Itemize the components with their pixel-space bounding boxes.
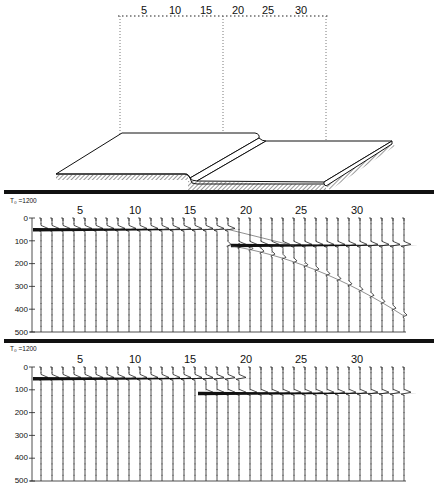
seismic-trace	[159, 367, 169, 481]
seismic-trace	[93, 218, 103, 332]
seismic-trace	[115, 367, 125, 481]
seismic-trace	[104, 367, 114, 481]
seismic-trace	[214, 218, 224, 332]
seismic-trace	[137, 218, 147, 332]
seismic-trace	[181, 367, 191, 481]
trace-label: 10	[129, 204, 141, 216]
y-tick-label: 200	[15, 259, 29, 268]
scale-label: 15	[200, 4, 212, 16]
trace-hook	[83, 367, 85, 370]
trace-label: 30	[351, 353, 363, 365]
y-tick-label: 300	[15, 431, 29, 440]
seismic-trace	[181, 218, 191, 332]
separator-bar	[4, 339, 434, 343]
seismic-trace	[60, 218, 70, 332]
y-tick-label: 0	[24, 363, 29, 372]
seismic-trace	[368, 218, 378, 332]
trace-hook	[193, 218, 195, 221]
seismic-trace	[49, 367, 59, 481]
reflector-band	[198, 392, 418, 396]
hatch-left	[56, 175, 188, 180]
seismic-trace	[159, 218, 169, 332]
trace-label: 5	[77, 353, 83, 365]
trace-hook	[215, 218, 217, 221]
seismic-trace	[346, 218, 356, 332]
trace-hook	[391, 218, 393, 221]
trace-label: 30	[351, 204, 363, 216]
seismic-trace	[269, 218, 279, 332]
seismic-trace	[313, 367, 323, 481]
trace-hook	[369, 218, 371, 221]
trace-hook	[50, 367, 52, 370]
trace-hook	[72, 367, 74, 370]
seismic-trace	[126, 218, 136, 332]
trace-hook	[380, 367, 382, 370]
trace-label: 25	[295, 204, 307, 216]
seismic-trace	[203, 367, 213, 481]
y-tick-label: 500	[15, 328, 29, 337]
trace-hook	[270, 218, 272, 221]
seismic-trace	[225, 367, 235, 481]
trace-label: 5	[77, 204, 83, 216]
seismic-trace	[379, 218, 389, 332]
trace-hook	[50, 218, 52, 221]
trace-hook	[248, 367, 250, 370]
seismic-trace	[137, 367, 147, 481]
trace-hook	[259, 367, 261, 370]
scale-label: 10	[169, 4, 181, 16]
seismic-trace	[60, 367, 70, 481]
trace-hook	[138, 367, 140, 370]
trace-hook	[193, 367, 195, 370]
trace-hook	[127, 367, 129, 370]
trace-hook	[336, 218, 338, 221]
trace-hook	[347, 218, 349, 221]
trace-hook	[237, 367, 239, 370]
trace-hook	[226, 367, 228, 370]
seismic-trace	[379, 367, 389, 481]
seismic-trace	[324, 218, 334, 332]
trace-hook	[303, 367, 305, 370]
seismic-trace	[280, 218, 290, 332]
trace-hook	[138, 218, 140, 221]
trace-hook	[358, 218, 360, 221]
seismic-trace	[258, 218, 268, 332]
trace-hook	[105, 367, 107, 370]
trace-hook	[380, 218, 382, 221]
seismic-trace	[236, 367, 246, 481]
seismic-trace	[258, 367, 268, 481]
trace-hook	[314, 218, 316, 221]
trace-hook	[248, 218, 250, 221]
seismic-trace	[291, 367, 301, 481]
trace-label: 25	[295, 353, 307, 365]
trace-hook	[116, 367, 118, 370]
trace-label: 15	[184, 353, 196, 365]
separator-bar	[4, 190, 434, 194]
seismic-trace	[368, 367, 378, 481]
y-tick-label: 0	[24, 214, 29, 223]
seismic-trace	[357, 367, 367, 481]
trace-hook	[226, 218, 228, 221]
seismic-trace	[247, 367, 257, 481]
trace-hook	[259, 218, 261, 221]
trace-hook	[314, 367, 316, 370]
seismogram-panel-lower: T₀ =1200 5 10 15 20 25 30 0 100 200 300 …	[10, 345, 418, 485]
trace-hook	[358, 367, 360, 370]
trace-hook	[215, 367, 217, 370]
seismic-trace	[49, 218, 59, 332]
trace-hook	[336, 367, 338, 370]
seismic-trace	[324, 367, 334, 481]
trace-hook	[292, 367, 294, 370]
trace-hook	[171, 218, 173, 221]
y-tick-label: 300	[15, 282, 29, 291]
seismic-trace	[82, 367, 92, 481]
seismic-trace	[390, 218, 400, 332]
trace-hook	[325, 367, 327, 370]
seismic-trace	[390, 367, 400, 481]
trace-hook	[127, 218, 129, 221]
seismogram-panel-upper: T₀ =1200 5 10 15 20 25 30 0 100 200 300 …	[10, 197, 418, 337]
trace-hook	[391, 367, 393, 370]
y-tick-label: 200	[15, 408, 29, 417]
y-tick-label: 100	[15, 385, 29, 394]
seismic-trace	[192, 218, 202, 332]
y-tick-label: 100	[15, 237, 29, 246]
